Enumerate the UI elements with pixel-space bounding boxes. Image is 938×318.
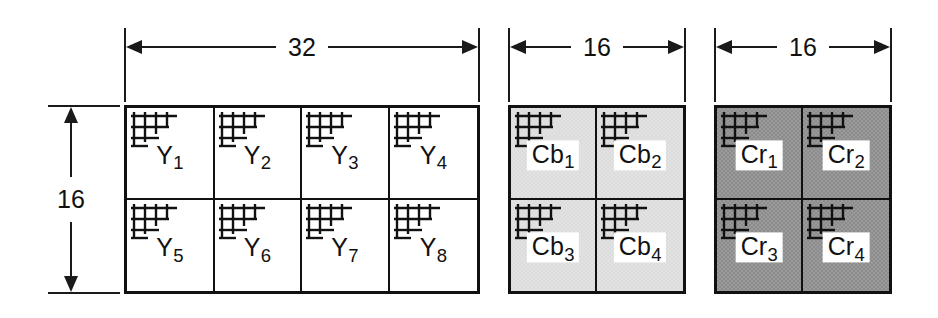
- cr-block[interactable]: Cr2: [803, 108, 889, 200]
- block-component: Y: [244, 233, 261, 261]
- extension-line-height-bottom: [48, 292, 120, 294]
- luma-block-label: Y3: [331, 142, 358, 167]
- block-component: Cb: [619, 140, 651, 168]
- block-index: 6: [261, 244, 271, 265]
- block-index: 3: [767, 244, 777, 265]
- block-index: 8: [437, 244, 447, 265]
- cb-block-label: Cb1: [527, 140, 579, 170]
- extension-line-height-top: [48, 105, 120, 107]
- cb-block-label: Cb4: [614, 233, 666, 263]
- dimension-height: 16: [62, 107, 80, 292]
- arrow-left-icon: [510, 40, 526, 54]
- luma-block-label: Y4: [420, 142, 447, 167]
- cr-block-label: Cr4: [823, 233, 870, 263]
- block-component: Y: [420, 233, 437, 261]
- dimension-line: [328, 46, 462, 48]
- arrow-left-icon: [126, 40, 142, 54]
- cr-block[interactable]: Cr3: [717, 200, 803, 292]
- dimension-cb-width: 16: [510, 38, 684, 56]
- dimension-line: [70, 222, 72, 276]
- luma-block-label: Y6: [244, 235, 271, 260]
- block-index: 1: [173, 152, 183, 173]
- cb-block-label: Cb2: [614, 140, 666, 170]
- block-index: 2: [854, 152, 864, 173]
- block-index: 1: [767, 152, 777, 173]
- block-index: 4: [651, 244, 661, 265]
- luma-block[interactable]: Y7: [302, 200, 390, 292]
- luma-block-label: Y2: [244, 142, 271, 167]
- dimension-luma-width-label: 32: [276, 35, 328, 60]
- luma-block[interactable]: Y6: [215, 200, 303, 292]
- block-component: Cr: [741, 233, 767, 261]
- cb-block[interactable]: Cb1: [511, 108, 597, 200]
- ycbcr-macroblock-diagram: 32 16 16 16: [0, 0, 938, 318]
- arrow-right-icon: [462, 40, 478, 54]
- block-component: Y: [156, 140, 173, 168]
- luma-block[interactable]: Y1: [127, 108, 215, 200]
- block-component: Y: [331, 233, 348, 261]
- block-index: 2: [261, 152, 271, 173]
- luma-block-label: Y7: [331, 235, 358, 260]
- arrow-down-icon: [64, 276, 78, 292]
- cb-block[interactable]: Cb2: [597, 108, 683, 200]
- cb-block[interactable]: Cb4: [597, 200, 683, 292]
- luma-block-label: Y1: [156, 142, 183, 167]
- dimension-line: [829, 46, 874, 48]
- block-index: 1: [564, 152, 574, 173]
- cr-block-label: Cr2: [823, 140, 870, 170]
- block-index: 5: [173, 244, 183, 265]
- arrow-left-icon: [716, 40, 732, 54]
- dimension-line: [526, 46, 571, 48]
- block-index: 4: [854, 244, 864, 265]
- dimension-line: [623, 46, 668, 48]
- extension-line-cb-right: [684, 28, 686, 102]
- luma-block[interactable]: Y5: [127, 200, 215, 292]
- cr-block[interactable]: Cr1: [717, 108, 803, 200]
- cb-block-label: Cb3: [527, 233, 579, 263]
- block-index: 4: [437, 152, 447, 173]
- block-index: 3: [348, 152, 358, 173]
- block-index: 3: [564, 244, 574, 265]
- cb-block[interactable]: Cb3: [511, 200, 597, 292]
- dimension-line: [732, 46, 777, 48]
- cr-block[interactable]: Cr4: [803, 200, 889, 292]
- luma-block[interactable]: Y8: [390, 200, 478, 292]
- arrow-right-icon: [668, 40, 684, 54]
- luma-block[interactable]: Y3: [302, 108, 390, 200]
- block-index: 7: [348, 244, 358, 265]
- luma-block-label: Y5: [156, 235, 183, 260]
- cr-block-label: Cr3: [736, 233, 783, 263]
- dimension-luma-width: 32: [126, 38, 478, 56]
- luma-block-group: Y1 Y2: [124, 105, 480, 294]
- dimension-cr-width: 16: [716, 38, 890, 56]
- dimension-line: [70, 123, 72, 177]
- cr-block-group: Cr1 Cr2: [714, 105, 892, 294]
- block-component: Cr: [828, 140, 854, 168]
- block-component: Cb: [532, 140, 564, 168]
- arrow-up-icon: [64, 107, 78, 123]
- block-index: 2: [651, 152, 661, 173]
- cb-block-group: Cb1 Cb2: [508, 105, 686, 294]
- extension-line-luma-right: [478, 28, 480, 102]
- block-component: Y: [420, 140, 437, 168]
- block-component: Y: [331, 140, 348, 168]
- block-component: Cr: [828, 233, 854, 261]
- dimension-cb-width-label: 16: [571, 35, 623, 60]
- dimension-line: [142, 46, 276, 48]
- block-component: Y: [156, 233, 173, 261]
- block-component: Cr: [741, 140, 767, 168]
- arrow-right-icon: [874, 40, 890, 54]
- block-component: Cb: [619, 233, 651, 261]
- block-component: Cb: [532, 233, 564, 261]
- cr-block-label: Cr1: [736, 140, 783, 170]
- extension-line-cr-right: [890, 28, 892, 102]
- luma-block[interactable]: Y2: [215, 108, 303, 200]
- luma-block-label: Y8: [420, 235, 447, 260]
- luma-block[interactable]: Y4: [390, 108, 478, 200]
- dimension-height-label: 16: [57, 177, 85, 222]
- block-component: Y: [244, 140, 261, 168]
- dimension-cr-width-label: 16: [777, 35, 829, 60]
